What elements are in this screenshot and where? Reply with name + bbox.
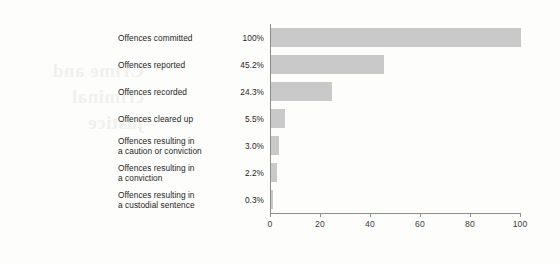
bar xyxy=(271,109,285,128)
chart-row: Offences reported45.2% xyxy=(0,51,560,78)
x-axis-tick-label: 40 xyxy=(350,219,390,229)
row-category-label-line-1: Offences resulting in xyxy=(118,189,240,199)
row-category-label-line-1: Offences resulting in xyxy=(118,135,240,145)
row-category-label-line-1: Offences committed xyxy=(118,32,240,42)
chart-row: Offences resulting ina conviction2.2% xyxy=(0,159,560,186)
x-axis-tick-mark xyxy=(370,213,371,217)
bar-track xyxy=(271,186,560,213)
x-axis-tick-label: 0 xyxy=(250,219,290,229)
row-category-label: Offences recorded xyxy=(118,86,240,96)
bar xyxy=(271,55,384,74)
chart-row: Offences recorded24.3% xyxy=(0,78,560,105)
row-category-label-line-1: Offences cleared up xyxy=(118,113,240,123)
x-axis-tick-mark xyxy=(270,213,271,217)
row-category-label: Offences resulting ina caution or convic… xyxy=(118,135,240,155)
horizontal-bar-chart: Offences committed100%Offences reported4… xyxy=(0,0,560,264)
x-axis-line xyxy=(270,213,521,214)
bar-track xyxy=(271,78,560,105)
row-value-label: 0.3% xyxy=(228,195,264,205)
row-value-label: 2.2% xyxy=(228,168,264,178)
x-axis-tick-mark xyxy=(520,213,521,217)
bar-track xyxy=(271,105,560,132)
row-value-label: 3.0% xyxy=(228,141,264,151)
row-category-label-line-1: Offences recorded xyxy=(118,86,240,96)
x-axis-tick-label: 60 xyxy=(400,219,440,229)
row-category-label-line-2: a conviction xyxy=(118,173,240,183)
row-category-label-line-2: a caution or conviction xyxy=(118,146,240,156)
bar-track xyxy=(271,132,560,159)
x-axis-tick-label: 100 xyxy=(500,219,540,229)
x-axis-tick-label: 20 xyxy=(300,219,340,229)
row-category-label: Offences resulting ina conviction xyxy=(118,162,240,182)
x-axis-tick-label: 80 xyxy=(450,219,490,229)
row-category-label: Offences committed xyxy=(118,32,240,42)
y-axis-line xyxy=(270,24,271,213)
row-value-label: 45.2% xyxy=(228,60,264,70)
row-category-label: Offences resulting ina custodial sentenc… xyxy=(118,189,240,209)
row-value-label: 100% xyxy=(228,33,264,43)
bar xyxy=(271,136,279,155)
bar xyxy=(271,190,273,209)
row-category-label-line-1: Offences reported xyxy=(118,59,240,69)
row-value-label: 5.5% xyxy=(228,114,264,124)
chart-row: Offences cleared up5.5% xyxy=(0,105,560,132)
bar xyxy=(271,163,277,182)
chart-row: Offences resulting ina caution or convic… xyxy=(0,132,560,159)
bar-track xyxy=(271,159,560,186)
row-category-label-line-2: a custodial sentence xyxy=(118,200,240,210)
bar-track xyxy=(271,51,560,78)
x-axis-tick-mark xyxy=(320,213,321,217)
row-category-label-line-1: Offences resulting in xyxy=(118,162,240,172)
row-category-label: Offences cleared up xyxy=(118,113,240,123)
row-category-label: Offences reported xyxy=(118,59,240,69)
bar xyxy=(271,28,521,47)
x-axis-tick-mark xyxy=(470,213,471,217)
x-axis-tick-mark xyxy=(420,213,421,217)
chart-row: Offences committed100% xyxy=(0,24,560,51)
row-value-label: 24.3% xyxy=(228,87,264,97)
chart-rows: Offences committed100%Offences reported4… xyxy=(0,24,560,213)
bar-track xyxy=(271,24,560,51)
chart-row: Offences resulting ina custodial sentenc… xyxy=(0,186,560,213)
bar xyxy=(271,82,332,101)
